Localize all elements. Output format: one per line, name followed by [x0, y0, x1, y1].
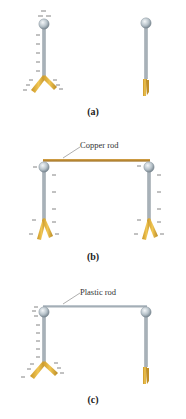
electroscope-left-charged: [23, 11, 63, 93]
copper-rod-leader-line: [63, 147, 80, 158]
ball-icon: [39, 162, 49, 172]
electroscope-figure: [0, 0, 186, 419]
electroscope-right-neutral: [141, 18, 151, 96]
stem: [148, 170, 151, 220]
electroscope-left-charged: [21, 307, 64, 379]
panel-label-b: (b): [73, 251, 113, 262]
panel-c: [21, 293, 151, 384]
stem: [145, 27, 148, 79]
copper-rod: [43, 159, 150, 162]
stem: [145, 315, 148, 367]
plastic-rod-label: Plastic rod: [80, 287, 116, 297]
electroscope-right: [134, 162, 164, 240]
ball-icon: [141, 307, 151, 317]
stem: [43, 170, 46, 220]
panel-a: [23, 11, 151, 96]
ball-icon: [144, 162, 154, 172]
plastic-rod: [43, 305, 147, 307]
panel-label-c: (c): [73, 394, 113, 405]
ball-icon: [39, 307, 49, 317]
ball-icon: [141, 18, 151, 28]
plastic-rod-leader-line: [63, 293, 80, 304]
copper-rod-label: Copper rod: [80, 140, 118, 150]
stem: [43, 315, 46, 362]
leaf-right: [42, 75, 57, 90]
ball-icon: [39, 19, 49, 29]
electroscope-right-neutral: [141, 307, 151, 384]
electroscope-left: [29, 162, 59, 240]
stem: [43, 27, 46, 77]
panel-label-a: (a): [73, 106, 113, 117]
panel-b: [29, 147, 164, 240]
